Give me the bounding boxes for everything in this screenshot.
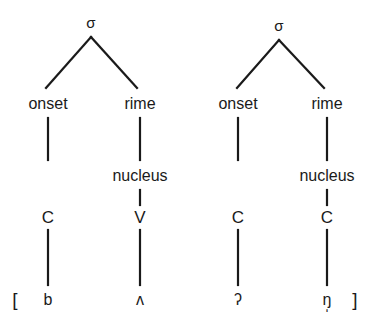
segment-onset-2: ʔ xyxy=(234,292,242,308)
rime-label-1: rime xyxy=(124,96,155,112)
onset-tier-c-1: C xyxy=(42,209,54,226)
onset-label-2: onset xyxy=(218,96,257,112)
syllable-tree-diagram: σ onset rime nucleus C V [ b ʌ σ onset r… xyxy=(0,0,372,325)
nucleus-tier-v-1: V xyxy=(134,209,145,226)
close-bracket: ] xyxy=(352,290,357,309)
rime-label-2: rime xyxy=(311,96,342,112)
tree-branch-lines xyxy=(0,0,372,325)
segment-nucleus-1: ʌ xyxy=(136,292,144,308)
segment-onset-1: b xyxy=(44,292,53,308)
onset-tier-c-2: C xyxy=(232,209,244,226)
nucleus-tier-c-2: C xyxy=(321,209,333,226)
onset-label-1: onset xyxy=(28,96,67,112)
nucleus-label-1: nucleus xyxy=(112,168,167,184)
branch-sigma-onset-2 xyxy=(237,40,279,88)
branch-sigma-onset-1 xyxy=(46,37,91,88)
syllable-node-sigma-2: σ xyxy=(274,18,283,33)
open-bracket: [ xyxy=(12,290,17,309)
branch-sigma-rime-1 xyxy=(91,37,137,88)
syllable-node-sigma-1: σ xyxy=(86,15,95,30)
segment-nucleus-2: ŋ̩ xyxy=(323,292,332,308)
nucleus-label-2: nucleus xyxy=(299,168,354,184)
branch-sigma-rime-2 xyxy=(279,40,324,88)
